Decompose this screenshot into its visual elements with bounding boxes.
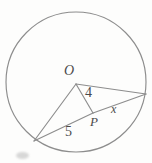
chord-left-segment: [34, 113, 93, 141]
geometry-figure: O 4 x P 5: [0, 0, 152, 163]
scan-artifact-smudge: [16, 152, 29, 159]
segment-label-op: 4: [85, 86, 92, 100]
point-label-o: O: [64, 64, 74, 78]
point-label-p: P: [90, 115, 98, 128]
figure-canvas: [0, 0, 152, 163]
segment-label-pb: x: [111, 103, 116, 115]
circle-outline: [6, 12, 146, 152]
segment-label-ap: 5: [65, 125, 72, 139]
chord-right-segment: [93, 94, 146, 113]
